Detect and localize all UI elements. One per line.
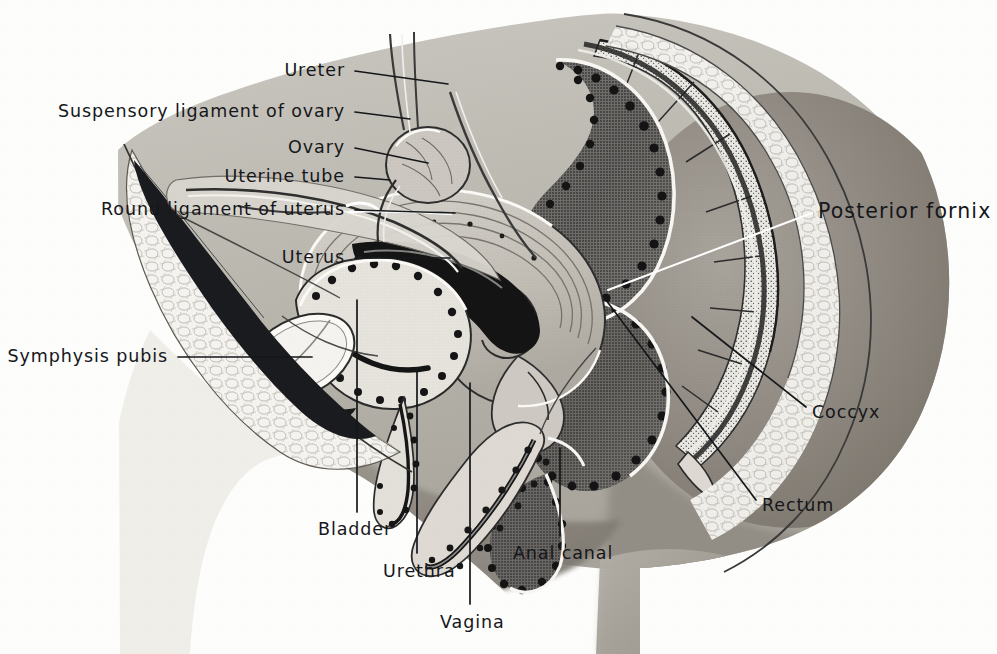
label-rectum: Rectum [762,497,834,515]
label-ureter: Ureter [284,62,345,80]
label-uterus: Uterus [282,249,345,267]
label-uterine-tube: Uterine tube [224,168,345,186]
label-vagina: Vagina [440,614,505,632]
label-anal-canal: Anal canal [513,545,613,563]
label-coccyx: Coccyx [812,404,880,422]
sagittal-pelvis-illustration [0,0,997,654]
label-round-ligament: Round ligament of uterus [101,201,345,219]
label-urethra: Urethra [383,563,456,581]
label-ovary: Ovary [288,139,345,157]
label-symphysis-pubis: Symphysis pubis [7,348,168,366]
label-posterior-fornix: Posterior fornix [818,201,991,222]
label-suspensory: Suspensory ligament of ovary [58,103,345,121]
anatomy-figure: UreterSuspensory ligament of ovaryOvaryU… [0,0,997,654]
label-bladder: Bladder [318,521,392,539]
